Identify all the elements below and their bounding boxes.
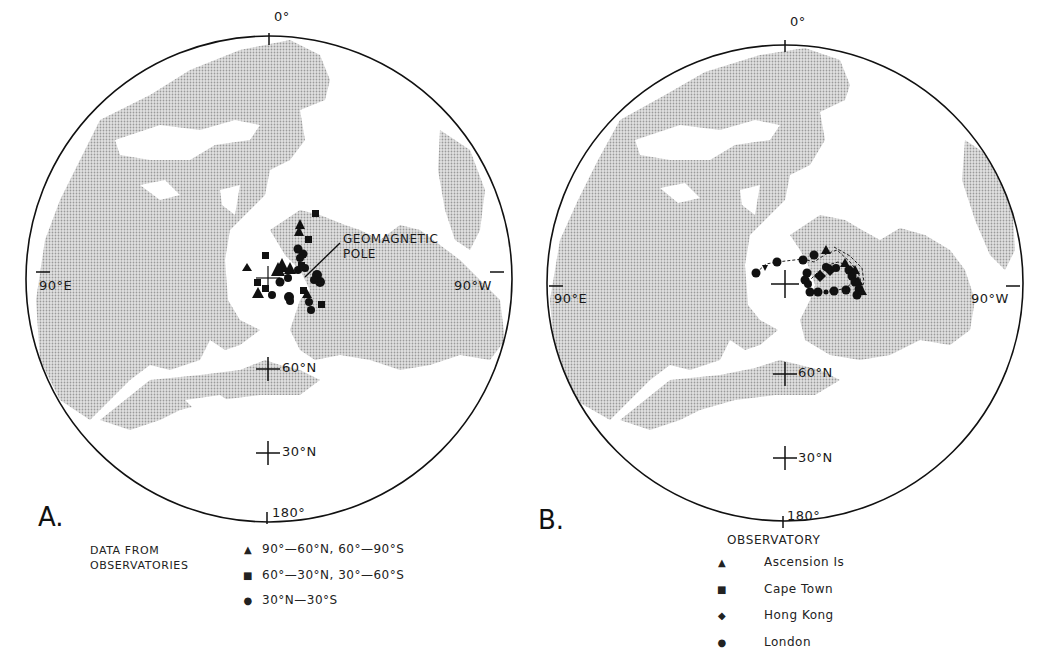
square-icon: ■ [242, 570, 254, 581]
panel-b-legend-item: ● London [716, 635, 811, 649]
panel-b-label-90w: 90°W [971, 291, 1009, 306]
legend-title-line-2: OBSERVATORIES [90, 558, 188, 573]
square-icon: ■ [716, 584, 728, 595]
panel-a-map [26, 33, 512, 524]
legend-label: London [764, 635, 811, 649]
panel-b-label-180deg: 180° [787, 508, 820, 523]
panel-b-legend-item: ◆ Hong Kong [716, 608, 834, 622]
annotation-line-2: POLE [343, 247, 438, 262]
panel-b-legend-item: ▲ Ascension Is [716, 555, 844, 569]
legend-label: Cape Town [764, 582, 833, 596]
panel-b-letter: B. [538, 505, 564, 535]
panel-a-label-90w: 90°W [454, 278, 492, 293]
panel-a-label-30n: 30°N [282, 444, 317, 459]
panel-b-lat30-cross [773, 446, 797, 470]
panel-b-pole-cross [771, 270, 799, 298]
panel-a-legend-item: ▲ 90°—60°N, 60°—90°S [242, 542, 404, 556]
triangle-icon: ▲ [716, 557, 728, 568]
panel-a-label-180deg: 180° [272, 505, 305, 520]
panel-b-label-90e: 90°E [554, 291, 587, 306]
panel-b-label-60n: 60°N [798, 365, 833, 380]
panel-a-legend-title: DATA FROM OBSERVATORIES [90, 543, 188, 573]
panel-a-lat30-cross [256, 441, 280, 465]
geomagnetic-pole-annotation: GEOMAGNETIC POLE [343, 232, 438, 262]
legend-label: Ascension Is [764, 555, 844, 569]
diamond-icon: ◆ [716, 610, 728, 621]
panel-b-label-30n: 30°N [798, 450, 833, 465]
legend-label: 90°—60°N, 60°—90°S [262, 542, 404, 556]
panel-a-legend-item: ● 30°N—30°S [242, 593, 338, 607]
legend-label: Hong Kong [764, 608, 834, 622]
panel-b-map [547, 40, 1023, 528]
legend-label: 30°N—30°S [262, 593, 338, 607]
legend-label: 60°—30°N, 30°—60°S [262, 568, 404, 582]
panel-b-land [550, 48, 1015, 430]
panel-b-label-0deg: 0° [790, 14, 806, 29]
panel-a-label-0deg: 0° [274, 9, 290, 24]
circle-icon: ● [716, 637, 728, 648]
circle-icon: ● [242, 595, 254, 606]
annotation-line-1: GEOMAGNETIC [343, 232, 438, 247]
panel-b-legend-title: OBSERVATORY [727, 533, 820, 548]
panel-b-legend-item: ■ Cape Town [716, 582, 833, 596]
panel-a-letter: A. [38, 502, 64, 532]
panel-a-label-60n: 60°N [282, 360, 317, 375]
panel-a-legend-item: ■ 60°—30°N, 30°—60°S [242, 568, 404, 582]
legend-title-line-1: DATA FROM [90, 543, 188, 558]
triangle-icon: ▲ [242, 544, 254, 555]
panel-a-label-90e: 90°E [39, 278, 72, 293]
